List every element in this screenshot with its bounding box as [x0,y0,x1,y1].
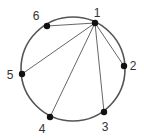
node-label-3: 3 [102,120,109,134]
edge-1-6 [47,23,95,26]
edge-1-3 [95,23,104,112]
node-3 [101,109,107,115]
node-5 [19,71,25,77]
node-4 [47,114,53,120]
node-label-2: 2 [130,59,137,73]
edge-1-4 [50,23,95,117]
edges [22,23,124,117]
node-label-1: 1 [94,6,101,20]
node-1 [92,20,98,26]
node-6 [44,23,50,29]
node-label-6: 6 [33,9,40,23]
node-label-4: 4 [39,122,46,136]
edge-1-5 [22,23,95,74]
node-label-5: 5 [7,68,14,82]
circle-graph-diagram: 123456 [0,0,144,139]
node-2 [121,63,127,69]
